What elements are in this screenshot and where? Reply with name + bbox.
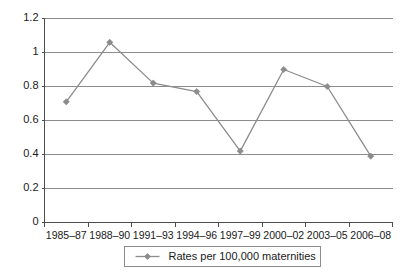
y-tick-label: 1 bbox=[32, 45, 38, 57]
series-group bbox=[63, 39, 374, 159]
x-tick-label: 1988–90 bbox=[89, 229, 130, 241]
y-tick-labels-group: 00.20.40.60.811.2 bbox=[23, 11, 44, 227]
y-tick-label: 0 bbox=[32, 215, 38, 227]
data-point-marker bbox=[324, 83, 330, 89]
y-tick-label: 0.8 bbox=[23, 79, 38, 91]
x-tick-labels-group: 1985–871988–901991–931994–961997–992000–… bbox=[46, 229, 392, 241]
x-tick-label: 2006–08 bbox=[350, 229, 391, 241]
x-tick-label: 1997–99 bbox=[220, 229, 261, 241]
line-chart: 00.20.40.60.811.2 1985–871988–901991–931… bbox=[0, 0, 414, 280]
x-tick-label: 1985–87 bbox=[46, 229, 87, 241]
series-line-rates bbox=[66, 42, 371, 156]
x-tick-marks-group bbox=[45, 223, 393, 227]
y-tick-label: 0.6 bbox=[23, 113, 38, 125]
x-tick-label: 2003–05 bbox=[307, 229, 348, 241]
chart-canvas: 00.20.40.60.811.2 1985–871988–901991–931… bbox=[0, 0, 414, 280]
x-tick-label: 1994–96 bbox=[176, 229, 217, 241]
legend-label: Rates per 100,000 maternities bbox=[169, 250, 317, 262]
data-point-marker bbox=[281, 66, 287, 72]
y-tick-label: 0.2 bbox=[23, 181, 38, 193]
x-tick-label: 2000–02 bbox=[263, 229, 304, 241]
y-tick-label: 0.4 bbox=[23, 147, 38, 159]
chart-legend: Rates per 100,000 maternities bbox=[125, 247, 321, 267]
y-tick-label: 1.2 bbox=[23, 11, 38, 23]
x-tick-label: 1991–93 bbox=[133, 229, 174, 241]
